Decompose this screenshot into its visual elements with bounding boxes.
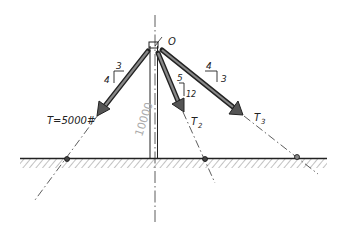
slope-t3-run: 4 (206, 61, 212, 71)
slope-t3-rise: 3 (221, 74, 227, 84)
force-label-t2-sub: 2 (198, 122, 203, 130)
force-label-t2-main: T (191, 116, 198, 127)
force-label-t2: T 2 (191, 116, 203, 130)
slope-t1-rise: 4 (104, 75, 110, 85)
pole-load-label: 10000 (132, 101, 155, 138)
force-label-t1: T=5000# (47, 115, 95, 126)
force-diagram: O 10000 4 3 5 12 (0, 0, 345, 235)
slope-t2-rise: 12 (186, 90, 196, 99)
force-label-t3: T 3 (254, 112, 265, 126)
anchor-t3 (295, 155, 300, 160)
anchor-t2 (203, 157, 208, 162)
anchor-t1 (65, 157, 70, 162)
point-o-label: O (168, 36, 176, 47)
force-label-t3-main: T (254, 112, 261, 123)
slope-t2-run: 5 (177, 73, 183, 83)
slope-marker-t3: 4 3 (205, 61, 227, 84)
slope-t1-run: 3 (116, 61, 122, 71)
force-label-t3-sub: 3 (261, 118, 265, 126)
